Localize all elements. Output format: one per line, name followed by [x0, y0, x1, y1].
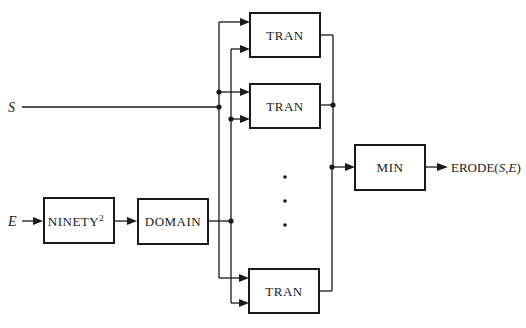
- output-label: ERODE(S,E): [451, 160, 521, 175]
- ninety-block-label: NINETY2: [48, 213, 104, 229]
- tran2-e-junction-dot: [228, 116, 233, 121]
- domain-junction-dot: [228, 218, 233, 223]
- tran1-e-arrow-icon: [240, 45, 250, 53]
- output-suffix: ): [516, 160, 520, 175]
- trann-e-arrow-icon: [239, 299, 249, 307]
- domain-block-label: DOMAIN: [145, 214, 202, 229]
- e-input-arrow-icon: [33, 217, 43, 225]
- ellipsis-dot-3: [283, 223, 287, 227]
- min-block-label: MIN: [377, 160, 404, 175]
- ninety-label-superscript: 2: [99, 213, 104, 223]
- tran2-e-arrow-icon: [240, 115, 250, 123]
- input-s-label: S: [8, 100, 15, 115]
- min-input-arrow-icon: [345, 163, 355, 171]
- output-prefix: ERODE(: [451, 160, 499, 175]
- input-e-label: E: [7, 214, 17, 229]
- ninety-to-domain-arrow-icon: [127, 217, 137, 225]
- erode-block-diagram: S TRAN TRAN TRAN: [0, 0, 526, 328]
- output-arrow-icon: [437, 163, 448, 171]
- tran2-s-junction-dot: [216, 89, 221, 94]
- trann-s-arrow-icon: [239, 274, 249, 282]
- ellipsis-dot-1: [283, 175, 287, 179]
- ellipsis-dot-2: [283, 199, 287, 203]
- ninety-label-text: NINETY: [48, 214, 99, 229]
- output-arg-e: E: [507, 160, 516, 175]
- tran1-s-arrow-icon: [240, 18, 250, 26]
- diagram-svg: S TRAN TRAN TRAN: [0, 0, 526, 328]
- tran-block-2-label: TRAN: [266, 99, 304, 114]
- tran-block-n-label: TRAN: [265, 284, 303, 299]
- tran-block-1-label: TRAN: [266, 28, 304, 43]
- tran2-s-arrow-icon: [240, 88, 250, 96]
